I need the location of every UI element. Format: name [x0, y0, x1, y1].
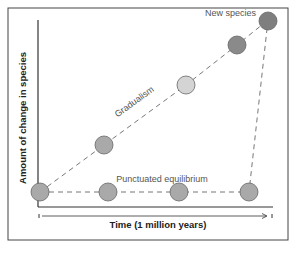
punctuated-point: [240, 183, 258, 201]
punctuated-point: [170, 183, 188, 201]
punctuated-label: Punctuated equilibrium: [116, 174, 208, 184]
origin-species-point: [31, 183, 49, 201]
new-species-label: New species: [205, 8, 257, 18]
new-species-point: [259, 12, 277, 30]
gradualism-point: [228, 36, 246, 54]
y-axis-label: Amount of change in species: [17, 52, 28, 184]
evolution-diagram: New species Gradualism Punctuated equili…: [0, 0, 296, 256]
punctuated-point: [99, 183, 117, 201]
gradualism-point: [177, 76, 195, 94]
gradualism-point: [95, 136, 113, 154]
x-axis-label: Time (1 million years): [110, 219, 207, 230]
